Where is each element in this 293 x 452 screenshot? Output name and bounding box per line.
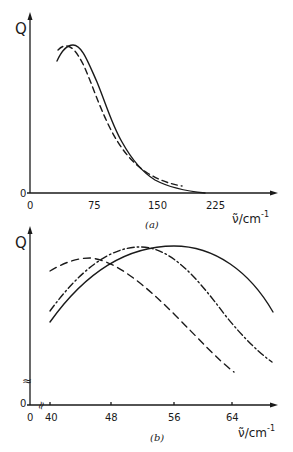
- x-tick-a-225: 225: [206, 200, 225, 211]
- x-axis-arrow-icon: [270, 191, 278, 196]
- x-tick-b-48: 48: [105, 412, 118, 423]
- figure: Q 0 0 75 150 225 ν̃/cm-1 (a) Q 0 ≈ ≈ 0 4…: [0, 0, 293, 452]
- curve-b-dashed: [50, 258, 234, 372]
- x-tick-b-0: 0: [27, 412, 33, 423]
- x-tick-b-40: 40: [45, 412, 58, 423]
- x-label-a: ν̃/cm-1: [232, 210, 269, 226]
- x-tick-a-0: 0: [27, 200, 33, 211]
- x-tick-a-75: 75: [88, 200, 101, 211]
- curve-b-solid: [50, 246, 273, 322]
- y-axis-break-icon: ≈: [22, 374, 32, 388]
- y-axis-arrow-icon: [28, 12, 33, 20]
- y-zero-b: 0: [20, 398, 26, 409]
- caption-a: (a): [145, 219, 159, 230]
- x-axis-break-icon: ≈: [34, 399, 49, 412]
- y-zero-a: 0: [20, 188, 26, 199]
- caption-b: (b): [150, 432, 164, 443]
- x-axis-arrow-icon: [270, 403, 278, 408]
- curve-a-dashed: [58, 46, 182, 186]
- x-tick-b-56: 56: [168, 412, 181, 423]
- panel-a: Q 0 0 75 150 225 ν̃/cm-1 (a): [15, 12, 278, 230]
- panel-b: Q 0 ≈ ≈ 0 40 48 56 64 ν̃/cm-1 (b): [15, 226, 278, 443]
- x-label-b: ν̃/cm-1: [238, 424, 275, 440]
- x-tick-b-64: 64: [226, 412, 239, 423]
- y-label-a: Q: [15, 20, 27, 38]
- y-axis-arrow-icon: [28, 226, 33, 234]
- y-label-b: Q: [15, 234, 27, 252]
- curve-b-dashdot: [50, 247, 272, 362]
- x-tick-a-150: 150: [148, 200, 167, 211]
- curve-a-solid: [57, 45, 205, 193]
